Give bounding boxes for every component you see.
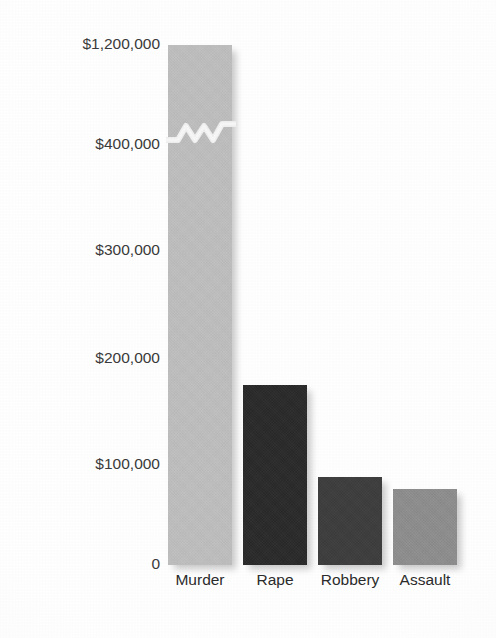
- x-label-rape: Rape: [235, 572, 315, 588]
- bar-group-rape: [243, 385, 307, 565]
- bar-group-murder: [168, 45, 232, 565]
- bar-group-robbery: [318, 477, 382, 565]
- plot-area: Murder Rape Robbery Assault: [0, 0, 496, 638]
- bar-chart: Average Bail Amounts for Violent Felonie…: [0, 0, 496, 638]
- bar-murder[interactable]: [168, 45, 232, 565]
- bar-group-assault: [393, 489, 457, 565]
- bar-robbery[interactable]: [318, 477, 382, 565]
- bar-assault[interactable]: [393, 489, 457, 565]
- x-label-robbery: Robbery: [310, 572, 390, 588]
- x-label-assault: Assault: [385, 572, 465, 588]
- x-label-murder: Murder: [160, 572, 240, 588]
- bar-rape[interactable]: [243, 385, 307, 565]
